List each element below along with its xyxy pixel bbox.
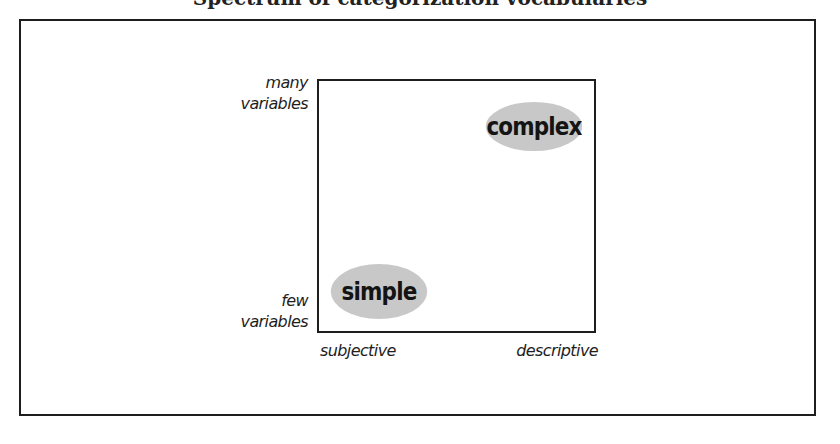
figure-title: Spectrum of categorization vocabularies xyxy=(0,0,840,10)
y-axis-top-label: many variables xyxy=(198,72,308,114)
complex-label: complex xyxy=(486,112,581,141)
y-axis-bottom-line1: few xyxy=(198,290,308,311)
y-axis-top-line1: many xyxy=(198,72,308,93)
y-axis-bottom-line2: variables xyxy=(198,311,308,332)
y-axis-bottom-label: few variables xyxy=(198,290,308,332)
complex-region: complex xyxy=(486,102,582,151)
simple-label: simple xyxy=(342,277,417,306)
y-axis-top-line2: variables xyxy=(198,93,308,114)
simple-region: simple xyxy=(331,264,427,319)
x-axis-left-label: subjective xyxy=(320,340,396,361)
x-axis-right-label: descriptive xyxy=(490,340,598,361)
